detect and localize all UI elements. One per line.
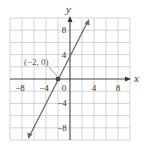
x-axis-label: x bbox=[133, 72, 139, 84]
x-intercept-point bbox=[56, 77, 61, 82]
x-tick-label: 4 bbox=[92, 83, 97, 93]
y-axis bbox=[68, 16, 73, 140]
point-annotation: (−2, 0) bbox=[24, 57, 49, 67]
graph: x y −8 −4 0 4 8 8 4 −4 −8 (−2, 0) bbox=[0, 0, 148, 148]
y-tick-label: −4 bbox=[57, 98, 67, 108]
y-tick-label: −8 bbox=[57, 123, 67, 133]
line-arrow-icon bbox=[85, 19, 90, 26]
x-tick-label: 0 bbox=[62, 83, 67, 93]
y-tick-label: 4 bbox=[62, 50, 67, 60]
x-tick-label: −4 bbox=[39, 83, 49, 93]
x-tick-label: −8 bbox=[15, 83, 25, 93]
line-arrow-icon bbox=[28, 133, 33, 140]
annotation-leader bbox=[49, 67, 57, 76]
y-tick-label: 8 bbox=[62, 25, 67, 35]
y-axis-label: y bbox=[65, 3, 71, 15]
y-axis-arrow-icon bbox=[68, 16, 73, 22]
x-tick-label: 8 bbox=[116, 83, 121, 93]
